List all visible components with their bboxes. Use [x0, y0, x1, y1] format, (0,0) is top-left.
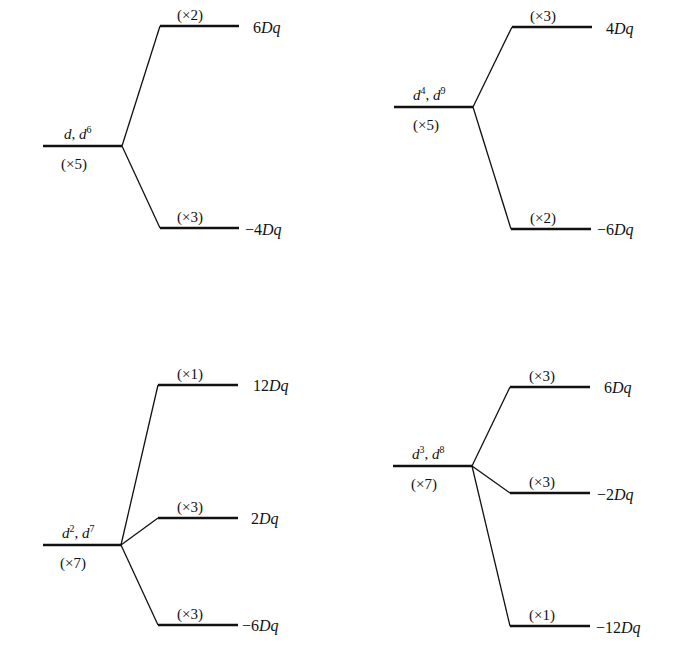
level-degeneracy: (×2) [177, 8, 203, 23]
energy-unit: Dq [614, 221, 634, 238]
ion-separator: , [75, 525, 83, 541]
ion-base: d [64, 126, 72, 142]
energy-unit: Dq [612, 379, 632, 396]
level-degeneracy: (×1) [177, 367, 203, 382]
ion-label: d, d6 [64, 127, 92, 142]
ion-separator: , [72, 126, 80, 142]
level-degeneracy: (×3) [177, 607, 203, 622]
parent-degeneracy: (×5) [413, 118, 439, 133]
energy-unit: Dq [614, 20, 634, 37]
ion-base: d [413, 87, 421, 103]
energy-number: 6 [604, 379, 612, 396]
energy-unit: Dq [621, 619, 641, 636]
parent-degeneracy: (×5) [61, 157, 87, 172]
ion-superscript: 7 [90, 523, 95, 534]
ion-separator: , [426, 87, 434, 103]
level-degeneracy: (×3) [177, 210, 203, 225]
ion-superscript: 6 [87, 124, 92, 135]
connector-line [473, 27, 512, 107]
level-energy: −6Dq [242, 618, 279, 633]
level-degeneracy: (×3) [529, 475, 555, 490]
energy-number: −4 [245, 221, 262, 238]
ion-base: d [62, 525, 70, 541]
level-energy: −2Dq [597, 487, 634, 502]
ion-base: d [82, 525, 90, 541]
energy-number: 2 [251, 510, 259, 527]
panel-d2-d7-lines [43, 385, 238, 625]
energy-unit: Dq [259, 617, 279, 634]
connector-line [122, 26, 160, 146]
connector-line [121, 545, 158, 625]
ion-base: d [79, 126, 87, 142]
energy-unit: Dq [614, 486, 634, 503]
level-energy: −12Dq [596, 620, 641, 635]
ion-label: d2, d7 [62, 526, 95, 541]
energy-number: −12 [596, 619, 621, 636]
level-energy: 6Dq [253, 20, 281, 35]
ion-superscript: 8 [440, 444, 445, 455]
energy-unit: Dq [269, 377, 289, 394]
energy-unit: Dq [261, 19, 281, 36]
ion-label: d4, d9 [413, 88, 446, 103]
level-energy: 2Dq [251, 511, 279, 526]
panel-d3-d8-lines [393, 387, 590, 626]
level-energy: −6Dq [597, 222, 634, 237]
ion-superscript: 9 [441, 85, 446, 96]
parent-degeneracy: (×7) [60, 556, 86, 571]
parent-degeneracy: (×7) [411, 477, 437, 492]
energy-number: 4 [606, 20, 614, 37]
connector-line [473, 107, 511, 229]
connector-line [122, 146, 160, 228]
energy-number: −6 [597, 221, 614, 238]
energy-number: 6 [253, 19, 261, 36]
connector-line [472, 466, 510, 626]
level-energy: 4Dq [606, 21, 634, 36]
ion-label: d3, d8 [412, 447, 445, 462]
level-degeneracy: (×2) [530, 211, 556, 226]
ion-separator: , [425, 446, 433, 462]
level-energy: −4Dq [245, 222, 282, 237]
level-degeneracy: (×3) [530, 9, 556, 24]
energy-unit: Dq [262, 221, 282, 238]
energy-number: −6 [242, 617, 259, 634]
ion-base: d [432, 446, 440, 462]
level-degeneracy: (×3) [177, 500, 203, 515]
energy-unit: Dq [259, 510, 279, 527]
level-energy: 12Dq [253, 378, 289, 393]
ion-base: d [412, 446, 420, 462]
energy-number: −2 [597, 486, 614, 503]
ion-base: d [433, 87, 441, 103]
energy-number: 12 [253, 377, 269, 394]
level-degeneracy: (×1) [529, 608, 555, 623]
crystal-field-splitting-diagram: d, d6 (×5) (×2) 6Dq (×3) −4Dq d4, d9 (×5… [0, 0, 686, 659]
diagram-lines [0, 0, 686, 659]
level-energy: 6Dq [604, 380, 632, 395]
connector-line [472, 387, 510, 466]
level-degeneracy: (×3) [529, 369, 555, 384]
connector-line [121, 385, 158, 545]
